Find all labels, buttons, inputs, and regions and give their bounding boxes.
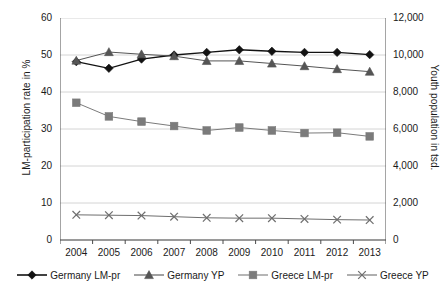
- legend-swatch-triangle-icon: [134, 268, 164, 282]
- y-tick-label-right: 6,000: [393, 123, 433, 134]
- data-point-square: [203, 127, 211, 135]
- y-tick-label-left: 60: [0, 12, 52, 23]
- legend-swatch-square-icon: [238, 268, 268, 282]
- y-tick-label-left: 20: [0, 160, 52, 171]
- data-point-square: [138, 118, 146, 126]
- legend-item[interactable]: Germany LM-pr: [17, 268, 120, 282]
- series-markers: [73, 211, 374, 224]
- y-tick-label-left: 0: [0, 234, 52, 245]
- legend-swatch-diamond-icon: [17, 268, 47, 282]
- legend-item[interactable]: Greece LM-pr: [238, 268, 333, 282]
- y-tick-label-right: 10,000: [393, 49, 433, 60]
- y-tick-label-left: 30: [0, 123, 52, 134]
- y-tick-label-right: 2,000: [393, 197, 433, 208]
- data-point-square: [73, 99, 81, 107]
- data-point-diamond: [268, 47, 276, 55]
- y-tick-label-left: 40: [0, 86, 52, 97]
- y-tick-label-right: 12,000: [393, 12, 433, 23]
- data-point-square: [301, 129, 309, 137]
- series-greece-lm-pr: [76, 103, 369, 137]
- chart-canvas: [60, 18, 386, 254]
- series-line: [76, 103, 369, 137]
- y-tick-label-left: 50: [0, 49, 52, 60]
- legend-label: Germany LM-pr: [50, 270, 120, 281]
- legend-label: Greece LM-pr: [271, 270, 333, 281]
- series-greece-yp: [76, 215, 369, 220]
- legend-item[interactable]: Greece YP: [347, 268, 429, 282]
- data-point-square: [268, 127, 276, 135]
- series-markers: [73, 99, 374, 140]
- plot-area: [60, 18, 386, 240]
- y-tick-label-right: 0: [393, 234, 433, 245]
- legend-label: Germany YP: [167, 270, 224, 281]
- data-point-diamond: [235, 46, 243, 54]
- y-tick-label-left: 10: [0, 197, 52, 208]
- data-point-square: [236, 124, 244, 132]
- chart-figure: LM-participation rate in % Youth populat…: [0, 0, 446, 298]
- data-point-square: [366, 133, 374, 141]
- y-tick-label-right: 8,000: [393, 86, 433, 97]
- series-line: [76, 215, 369, 220]
- y-tick-label-right: 4,000: [393, 160, 433, 171]
- data-point-square: [105, 113, 113, 121]
- data-point-square: [250, 271, 258, 279]
- data-point-square: [333, 129, 341, 137]
- data-point-triangle: [105, 48, 114, 56]
- data-point-diamond: [28, 271, 36, 279]
- legend-label: Greece YP: [380, 270, 429, 281]
- data-point-diamond: [366, 50, 374, 58]
- data-point-diamond: [105, 64, 113, 72]
- legend-swatch-cross-icon: [347, 268, 377, 282]
- legend-item[interactable]: Germany YP: [134, 268, 224, 282]
- chart-legend: Germany LM-prGermany YPGreece LM-prGreec…: [0, 262, 446, 288]
- data-point-square: [170, 122, 178, 130]
